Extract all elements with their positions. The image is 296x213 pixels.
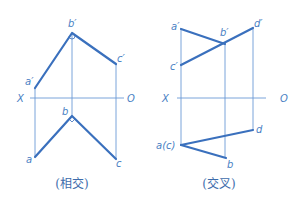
label-b-prime-left: b′ [68, 18, 77, 29]
label-d-right: d [256, 124, 263, 135]
caption-crossing: (交叉) [202, 176, 235, 191]
axis-label-o-left: O [127, 93, 135, 104]
label-b-right: b [227, 159, 233, 170]
label-c-left: c [116, 158, 122, 169]
label-ac-right: a(c) [156, 140, 175, 151]
front-view-ab [181, 29, 225, 44]
top-view-cd [181, 130, 253, 145]
label-b-left: b [62, 106, 68, 117]
front-view-abc [35, 33, 116, 88]
top-view-ab [181, 145, 226, 158]
top-view-abc [35, 116, 116, 159]
diagram-intersecting: X O a′ b′ c′ a b c (相交) [16, 18, 135, 191]
label-d-prime-right: d′ [254, 18, 263, 29]
axis-label-x-left: X [16, 93, 25, 104]
label-c-prime-right: c′ [170, 61, 178, 72]
label-c-prime-left: c′ [117, 53, 125, 64]
label-a-prime-left: a′ [25, 76, 34, 87]
right-angle-mark-b [69, 119, 75, 122]
label-a-prime-right: a′ [171, 21, 180, 32]
projection-diagrams: X O a′ b′ c′ a b c (相交) X O [0, 0, 296, 213]
caption-intersecting: (相交) [55, 176, 88, 191]
axis-label-o-right: O [280, 93, 288, 104]
label-b-prime-right: b′ [220, 27, 229, 38]
label-a-left: a [26, 154, 32, 165]
diagram-crossing: X O a′ b′ d′ c′ a(c) b d (交叉) [156, 18, 288, 191]
axis-label-x-right: X [161, 93, 170, 104]
